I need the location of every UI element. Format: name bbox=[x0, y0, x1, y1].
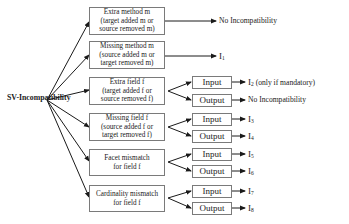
node-line: Missing field f bbox=[90, 114, 164, 122]
io-output-extra-field: Output bbox=[192, 94, 232, 107]
result-extra-field-input: I2 (only if mandatory) bbox=[248, 77, 315, 89]
result-i8: I8 bbox=[248, 203, 254, 215]
result-i4: I4 bbox=[248, 131, 254, 143]
node-line: Cardinality mismatch bbox=[90, 190, 164, 198]
node-cardinality-mismatch: Cardinality mismatch for field f bbox=[89, 185, 165, 212]
node-extra-field: Extra field f (target added f or source … bbox=[89, 77, 165, 105]
root-node-sv-incompatibility: SV-Incompatibility bbox=[7, 93, 71, 102]
node-line: (source added f or bbox=[90, 123, 164, 131]
io-input-cardinality: Input bbox=[192, 185, 232, 198]
node-missing-field: Missing field f (source added f or targe… bbox=[89, 113, 165, 141]
result-i3: I3 bbox=[248, 114, 254, 126]
io-output-missing-field: Output bbox=[192, 130, 232, 143]
node-line: for field f bbox=[90, 199, 164, 207]
node-line: (target added m or bbox=[90, 17, 164, 25]
result-i6: I6 bbox=[248, 166, 254, 178]
node-missing-method: Missing method m (source added m or targ… bbox=[89, 41, 165, 69]
io-input-facet: Input bbox=[192, 148, 232, 161]
node-line: source removed f) bbox=[90, 95, 164, 103]
result-i5: I5 bbox=[248, 149, 254, 161]
node-line: Facet mismatch bbox=[90, 154, 164, 162]
io-output-facet: Output bbox=[192, 165, 232, 178]
result-missing-method: I1 bbox=[219, 51, 225, 63]
connector-lines bbox=[0, 0, 349, 224]
result-extra-method: No Incompatibility bbox=[219, 16, 277, 26]
node-line: (source added m or bbox=[90, 51, 164, 59]
result-i7: I7 bbox=[248, 186, 254, 198]
node-line: target removed f) bbox=[90, 131, 164, 139]
node-extra-method: Extra method m (target added m or source… bbox=[89, 7, 165, 35]
result-extra-field-output: No Incompatibility bbox=[248, 95, 306, 105]
io-input-missing-field: Input bbox=[192, 113, 232, 126]
io-input-extra-field: Input bbox=[192, 76, 232, 89]
node-line: Extra method m bbox=[90, 8, 164, 16]
node-line: target removed m) bbox=[90, 59, 164, 67]
node-facet-mismatch: Facet mismatch for field f bbox=[89, 149, 165, 176]
io-output-cardinality: Output bbox=[192, 202, 232, 215]
node-line: Missing method m bbox=[90, 42, 164, 50]
node-line: for field f bbox=[90, 163, 164, 171]
node-line: Extra field f bbox=[90, 78, 164, 86]
node-line: (target added f or bbox=[90, 87, 164, 95]
node-line: source removed m) bbox=[90, 25, 164, 33]
